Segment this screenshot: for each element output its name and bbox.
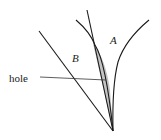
label-b: B bbox=[72, 52, 79, 64]
diagram-canvas: A B hole bbox=[0, 0, 161, 140]
curve-a-right bbox=[113, 20, 149, 131]
label-a: A bbox=[109, 34, 117, 46]
curve-a-left bbox=[76, 20, 113, 131]
label-hole: hole bbox=[9, 72, 28, 84]
